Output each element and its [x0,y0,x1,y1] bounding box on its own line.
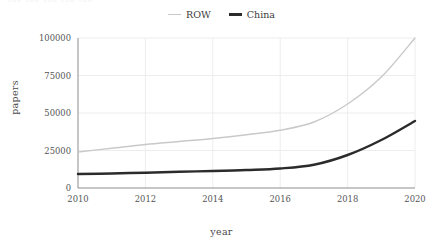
y-tick-label: 0 [66,183,71,193]
data-line-row [78,38,415,152]
x-tick-labels: 201020122014201620182020 [67,194,425,204]
x-tick-label: 2010 [67,194,88,204]
x-tick-label: 2016 [270,194,291,204]
x-tick-label: 2020 [404,194,425,204]
y-tick-label: 100000 [39,33,71,43]
chart-figure: the the the the the ROW China papers yea… [0,0,443,251]
grid-lines [78,38,415,188]
plot-area: 0250005000075000100000 20102012201420162… [0,0,443,251]
x-tick-label: 2014 [202,194,223,204]
y-tick-label: 25000 [44,146,71,156]
y-tick-label: 50000 [44,108,71,118]
x-tick-label: 2012 [135,194,156,204]
data-line-china [78,121,415,174]
x-tick-label: 2018 [337,194,358,204]
y-tick-labels: 0250005000075000100000 [39,33,71,193]
y-tick-label: 75000 [44,71,71,81]
